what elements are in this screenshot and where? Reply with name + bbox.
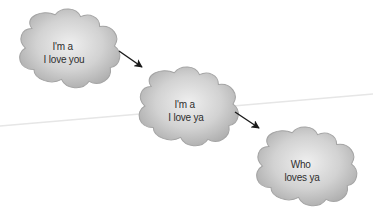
- cloud-2-line-2: I love ya: [168, 112, 204, 123]
- cloud-3-line-1: Who: [291, 159, 312, 170]
- flow-diagram: I'm a I love you I'm a I love ya Who lov…: [0, 0, 373, 223]
- arrow-2-to-3: [235, 112, 259, 128]
- cloud-2-line-1: I'm a: [175, 99, 196, 110]
- arrow-1-to-2: [119, 51, 142, 67]
- cloud-1-line-2: I love you: [44, 54, 85, 65]
- cloud-1-line-1: I'm a: [53, 41, 74, 52]
- cloud-3-line-2: loves ya: [284, 172, 320, 183]
